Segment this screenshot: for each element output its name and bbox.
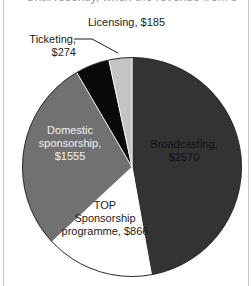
chart-figure: Until recently, when the revenue from s … [0,0,251,286]
slice-label-broadcasting-line2: $2570 [145,151,223,164]
slice-label-ticketing-line1: Ticketing, [12,33,76,46]
slice-label-domestic-sponsorship: Domestic sponsorship, $1555 [26,124,114,163]
slice-label-licensing: Licensing, $185 [88,16,165,29]
slice-label-ticketing-line2: $274 [12,46,76,59]
clipped-caption-text: Until recently, when the revenue from s [26,0,237,4]
pie-svg [22,57,242,277]
slice-label-broadcasting-line1: Broadcasting, [145,138,223,151]
pie-slice-broadcasting [132,57,242,275]
slice-label-top-sponsorship: TOP Sponsorship programme, $866 [55,199,155,238]
slice-label-top-line2: Sponsorship [55,212,155,225]
slice-label-domestic-line2: sponsorship, [26,137,114,150]
page-frame-line-left [3,0,4,286]
slice-label-broadcasting: Broadcasting, $2570 [145,138,223,164]
page-frame-line-right [248,0,249,286]
slice-label-licensing-line1: Licensing, $185 [88,16,165,29]
slice-label-ticketing: Ticketing, $274 [12,33,76,59]
slice-label-top-line1: TOP [55,199,155,212]
slice-label-domestic-line1: Domestic [26,124,114,137]
ticketing-leader-line [74,36,124,56]
clipped-caption-strip: Until recently, when the revenue from s [0,0,251,9]
pie-chart [22,57,242,277]
slice-label-top-line3: programme, $866 [55,225,155,238]
slice-label-domestic-line3: $1555 [26,150,114,163]
